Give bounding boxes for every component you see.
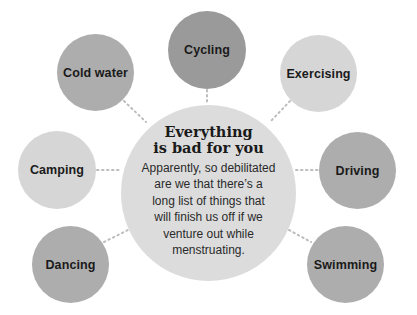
center-description-line: venture out while — [134, 226, 284, 243]
bubble-cold-water: Cold water — [57, 34, 134, 111]
bubble-label: Camping — [30, 163, 84, 177]
bubble-label: Driving — [336, 164, 380, 178]
connector-exercising — [270, 101, 290, 122]
connector-swimming — [289, 230, 311, 242]
center-description-line: will finish us off if we — [134, 209, 284, 226]
bubble-driving: Driving — [319, 132, 396, 209]
center-title: Everything is bad for you — [153, 124, 264, 156]
center-description-line: are we that there’s a — [134, 176, 284, 193]
bubble-camping: Camping — [18, 131, 96, 209]
bubble-label: Dancing — [45, 258, 95, 272]
everything-is-bad-diagram: Everything is bad for you Apparently, so… — [0, 0, 417, 315]
bubble-dancing: Dancing — [32, 226, 109, 303]
bubble-label: Swimming — [314, 258, 377, 272]
bubble-label: Cold water — [63, 66, 128, 80]
center-circle: Everything is bad for you Apparently, so… — [121, 105, 296, 281]
center-description-line: Apparently, so debilitated — [134, 160, 284, 177]
center-title-line-1: Everything — [153, 124, 264, 140]
connector-cold-water — [124, 101, 146, 122]
bubble-cycling: Cycling — [168, 11, 246, 89]
center-description: Apparently, so debilitated are we that t… — [134, 160, 284, 259]
bubble-label: Exercising — [286, 67, 350, 81]
bubble-exercising: Exercising — [280, 35, 357, 112]
connector-dancing — [104, 230, 128, 242]
center-description-line: long list of things that — [134, 193, 284, 210]
center-title-line-2: is bad for you — [153, 140, 264, 156]
bubble-swimming: Swimming — [307, 226, 384, 303]
center-description-line: menstruating. — [134, 242, 284, 259]
bubble-label: Cycling — [184, 43, 230, 57]
